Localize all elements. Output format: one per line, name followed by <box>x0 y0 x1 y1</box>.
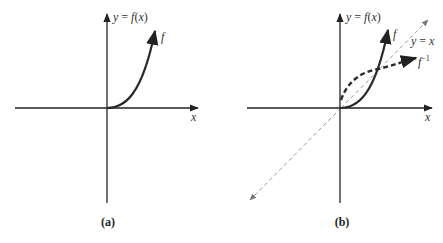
panel-caption-a: (a) <box>101 215 115 229</box>
y-axis-label: y = f(x) <box>345 10 381 24</box>
identity-line-label: y = x <box>410 34 435 48</box>
curve-f-label: f <box>393 27 398 41</box>
identity-line-lower <box>250 108 341 200</box>
curve-f <box>340 30 388 108</box>
curve-f-label: f <box>161 30 166 44</box>
panel-a: y = f(x) f x (a) <box>15 10 198 229</box>
f-inverse-superscript: −1 <box>421 54 430 63</box>
figure-canvas: y = f(x) f x (a) y = f(x) f y = x f−1 x … <box>0 0 443 243</box>
y-axis-label: y = f(x) <box>112 10 148 24</box>
curve-f <box>107 31 155 108</box>
x-axis-label: x <box>190 110 197 124</box>
panel-caption-b: (b) <box>335 215 350 229</box>
x-axis-label: x <box>424 110 431 124</box>
panel-b: y = f(x) f y = x f−1 x (b) <box>247 10 435 229</box>
curve-f-inverse-label: f−1 <box>418 54 430 69</box>
